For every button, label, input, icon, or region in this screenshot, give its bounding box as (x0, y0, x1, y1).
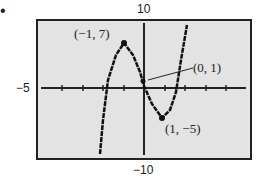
point-label-max: (−1, 7) (74, 26, 110, 42)
point-label-min: (1, −5) (165, 121, 201, 137)
point-label-intercept: (0, 1) (193, 60, 221, 76)
graph-screen (0, 0, 256, 192)
